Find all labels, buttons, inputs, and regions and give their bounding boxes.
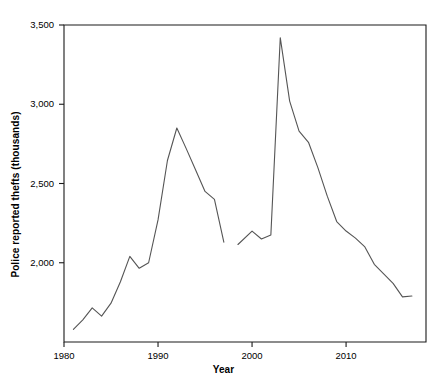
y-tick-label: 3,500 <box>10 19 54 30</box>
y-axis-ticks <box>59 25 64 263</box>
data-series-group <box>73 38 412 330</box>
y-axis-title: Police reported thefts (thousands) <box>8 0 24 389</box>
y-tick-label: 2,500 <box>10 178 54 189</box>
x-axis-ticks <box>64 342 346 347</box>
y-tick-label: 2,000 <box>10 257 54 268</box>
y-tick-label: 3,000 <box>10 98 54 109</box>
x-tick-label: 1980 <box>44 350 84 361</box>
x-tick-label: 2000 <box>232 350 272 361</box>
data-line-segment-1 <box>73 128 223 329</box>
line-chart: Police reported thefts (thousands) Year … <box>0 0 447 389</box>
data-line-segment-2 <box>238 38 412 297</box>
plot-area <box>0 0 447 389</box>
x-tick-label: 1990 <box>138 350 178 361</box>
x-axis-title: Year <box>0 364 447 375</box>
x-tick-label: 2010 <box>326 350 366 361</box>
axis-lines <box>64 25 426 342</box>
